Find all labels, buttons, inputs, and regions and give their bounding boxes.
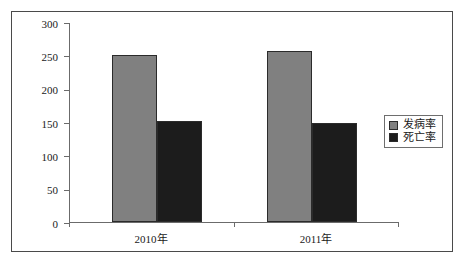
x-category-label-2011: 2011年 bbox=[300, 230, 333, 246]
x-category-label-2010: 2010年 bbox=[135, 230, 168, 246]
y-tick-250: 250 bbox=[64, 56, 70, 57]
black-swatch-icon bbox=[389, 133, 398, 142]
bar-2011-mortality bbox=[312, 123, 357, 222]
x-tick-right bbox=[398, 223, 399, 227]
gray-swatch-icon bbox=[389, 121, 398, 130]
y-tick-label-200: 200 bbox=[42, 85, 59, 96]
bar-2010-mortality bbox=[157, 121, 202, 222]
x-tick-mid bbox=[234, 223, 235, 227]
chart-legend: 发病率 死亡率 bbox=[384, 115, 443, 148]
y-tick-label-100: 100 bbox=[42, 151, 59, 162]
bar-2010-incidence bbox=[112, 55, 157, 222]
legend-label-mortality: 死亡率 bbox=[403, 132, 436, 145]
y-tick-label-250: 250 bbox=[42, 51, 59, 62]
legend-label-incidence: 发病率 bbox=[403, 119, 436, 132]
y-tick-label-0: 0 bbox=[53, 218, 59, 229]
y-tick-label-50: 50 bbox=[47, 185, 58, 196]
y-tick-150: 150 bbox=[64, 123, 70, 124]
x-tick-left bbox=[69, 223, 70, 227]
plot-area: 300 250 200 150 100 50 0 2010年 2 bbox=[69, 23, 399, 223]
y-tick-200: 200 bbox=[64, 90, 70, 91]
y-tick-300: 300 bbox=[64, 23, 70, 24]
legend-entry-mortality: 死亡率 bbox=[389, 132, 436, 145]
y-tick-label-300: 300 bbox=[42, 18, 59, 29]
y-tick-label-150: 150 bbox=[42, 118, 59, 129]
bar-2011-incidence bbox=[267, 51, 312, 222]
y-tick-100: 100 bbox=[64, 156, 70, 157]
legend-entry-incidence: 发病率 bbox=[389, 119, 436, 132]
y-tick-50: 50 bbox=[64, 190, 70, 191]
chart-frame: 300 250 200 150 100 50 0 2010年 2 bbox=[11, 11, 453, 252]
